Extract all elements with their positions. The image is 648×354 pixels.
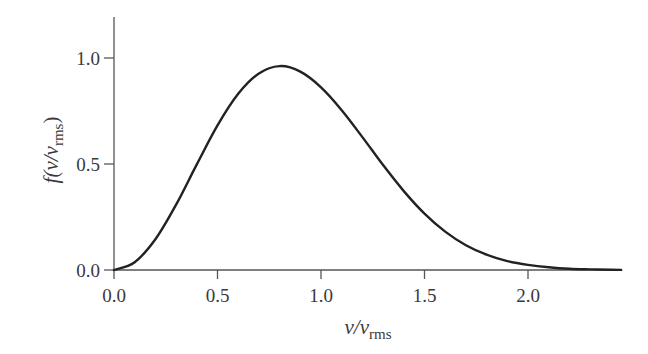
x-axis-label: v/vrms: [345, 315, 392, 342]
y-tick-label: 0.0: [76, 260, 100, 281]
y-ticks: 0.00.51.0: [76, 48, 114, 281]
y-tick-label: 1.0: [76, 48, 100, 69]
y-tick-label: 0.5: [76, 154, 100, 175]
x-tick-label: 0.0: [102, 285, 126, 306]
y-axis-label: f(v/vrms): [39, 117, 66, 184]
x-tick-label: 1.0: [309, 285, 333, 306]
x-ticks: 0.00.51.01.52.0: [102, 270, 540, 306]
distribution-curve: [114, 66, 621, 270]
x-tick-label: 2.0: [516, 285, 540, 306]
x-tick-label: 1.5: [413, 285, 437, 306]
x-tick-label: 0.5: [206, 285, 230, 306]
maxwell-distribution-chart: 0.00.51.0 0.00.51.01.52.0 v/vrms f(v/vrm…: [0, 0, 648, 354]
